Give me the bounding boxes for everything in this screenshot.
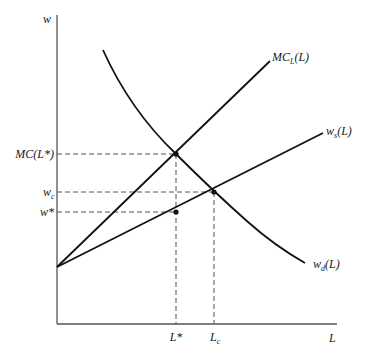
y-tick-mc-lstar: MC(L*) (14, 147, 54, 161)
supply-curve-label: ws(L) (326, 124, 352, 140)
y-axis-label: w (43, 12, 51, 26)
mc-curve (57, 61, 270, 267)
y-tick-wstar: w* (40, 205, 54, 219)
x-tick-lstar: L* (169, 330, 183, 344)
x-tick-lc: Lc (209, 330, 221, 346)
demand-curve-label: wd(L) (313, 257, 340, 273)
monopsony-wage-point (173, 209, 178, 214)
mc-demand-intersection-point (173, 151, 178, 156)
y-tick-wc: wc (43, 185, 55, 201)
x-axis-label: L (328, 331, 336, 345)
mc-curve-label: MCL(L) (271, 50, 309, 66)
supply-curve (57, 133, 323, 267)
monopsony-diagram: w L MCL(L) ws(L) wd(L) MC(L*) wc w* L* L… (0, 0, 369, 351)
supply-demand-intersection-point (211, 189, 216, 194)
